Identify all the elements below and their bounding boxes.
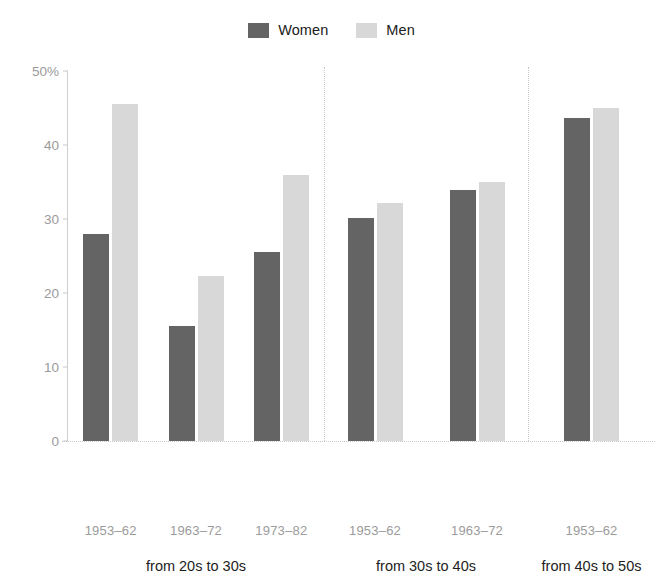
legend-entry-men[interactable]: Men [356,22,415,38]
legend-label-men: Men [386,22,415,38]
bar-men [593,108,619,441]
y-axis-tick-mark [63,219,68,220]
x-axis-tick-label: 1963–72 [170,523,222,538]
bar-women [564,118,590,441]
bar-women [450,190,476,441]
x-axis-tick-label: 1953–62 [85,523,137,538]
bar-women [83,234,109,441]
y-axis-tick-mark [63,441,68,442]
bar-men [377,203,403,441]
legend-swatch-men [356,23,377,38]
group-label: from 20s to 30s [146,558,246,574]
x-axis-tick-label: 1973–82 [255,523,307,538]
legend-entry-women[interactable]: Women [248,22,328,38]
group-label: from 40s to 50s [542,558,642,574]
legend-swatch-women [248,23,269,38]
bar-men [198,276,224,441]
y-axis-tick-mark [63,145,68,146]
x-axis-tick-label: 1953–62 [349,523,401,538]
group-separator-2 [528,67,529,441]
bar-men [112,104,138,441]
bar-men [283,175,309,441]
bar-women [169,326,195,441]
legend-label-women: Women [278,22,328,38]
chart-legend: WomenMen [0,22,663,38]
plot-area: 01020304050%1953–621963–721973–82from 20… [68,71,655,441]
x-axis-tick-label: 1953–62 [565,523,617,538]
x-axis-tick-label: 1963–72 [451,523,503,538]
y-axis-line [67,71,68,441]
group-label: from 30s to 40s [376,558,476,574]
bar-men [479,182,505,441]
x-axis-baseline [62,441,655,442]
bar-women [348,218,374,441]
bar-women [254,252,280,441]
y-axis-tick-mark [63,71,68,72]
y-axis-tick-mark [63,293,68,294]
group-separator-1 [324,67,325,441]
y-axis-tick-mark [63,367,68,368]
